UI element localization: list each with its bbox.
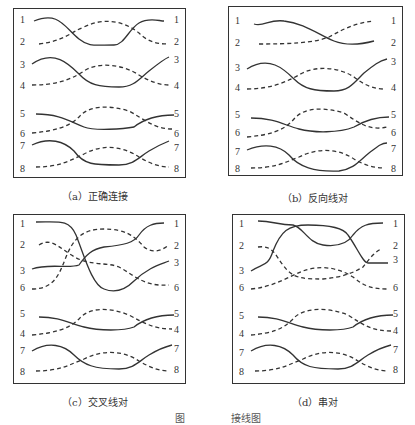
wire-4	[32, 65, 169, 85]
right-pin-label: 4	[393, 325, 398, 336]
left-pin-label: 4	[20, 80, 25, 91]
wire-5	[251, 117, 389, 132]
right-pin-label: 8	[174, 163, 179, 174]
left-pin-label: 4	[239, 328, 244, 339]
right-pin-label: 1	[391, 15, 396, 26]
left-pin-label: 3	[20, 265, 25, 276]
left-pin-label: 8	[20, 366, 25, 377]
figure-caption: 图 接线图	[175, 410, 261, 425]
right-pin-label: 8	[391, 163, 396, 174]
wire-4	[32, 309, 172, 335]
wire-3	[251, 225, 388, 271]
left-pin-label: 4	[235, 82, 240, 93]
right-pin-label: 5	[393, 308, 398, 319]
left-pin-label: 7	[20, 140, 25, 151]
wire-5	[39, 315, 174, 330]
wiring-diagram-b: 1 2 3 4 5 6 7 8 1 2 3 4 5 6 7 8	[229, 7, 404, 177]
wire-2	[39, 21, 169, 44]
left-pin-label: 2	[20, 239, 25, 250]
wire-7	[32, 345, 172, 369]
right-pin-label: 4	[174, 80, 179, 91]
right-pin-label: 7	[174, 343, 179, 354]
left-pin-label: 6	[20, 282, 25, 293]
left-pin-label: 5	[235, 109, 240, 120]
panel-c-crossed-pair: 1 2 3 6 5 4 7 8 1 2 3 6 5 4 7 8	[13, 214, 186, 384]
right-pin-label: 8	[174, 364, 179, 375]
right-pin-label: 3	[391, 56, 396, 67]
wire-3	[32, 223, 164, 269]
panel-d-split-pair: 1 2 3 6 5 4 7 8 1 2 3 6 5 4 7 8	[232, 214, 405, 384]
right-pin-label: 7	[393, 344, 398, 355]
left-pin-label: 8	[20, 163, 25, 174]
left-pin-label: 5	[20, 308, 25, 319]
wire-2	[258, 247, 381, 279]
panel-a-caption: （a）正确连接	[62, 188, 128, 203]
figure-caption-suffix: 接线图	[231, 413, 261, 424]
right-pin-label: 2	[174, 36, 179, 47]
right-pin-label: 6	[393, 282, 398, 293]
right-pin-label: 6	[174, 282, 179, 293]
wiring-diagram-a: 1 2 3 4 5 6 7 8 1 2 3 4 5 6 7 8	[14, 9, 187, 179]
left-pin-label: 2	[239, 240, 244, 251]
left-pin-label: 5	[20, 108, 25, 119]
wire-7	[251, 345, 391, 369]
wiring-diagram-d: 1 2 3 6 5 4 7 8 1 2 3 6 5 4 7 8	[233, 215, 406, 385]
left-pin-label: 3	[20, 59, 25, 70]
wire-4	[251, 309, 391, 335]
wire-8	[251, 150, 384, 168]
left-pin-label: 3	[239, 265, 244, 276]
wire-6	[39, 242, 169, 285]
left-pin-label: 2	[20, 36, 25, 47]
left-pin-label: 3	[235, 62, 240, 73]
left-pin-label: 1	[235, 15, 240, 26]
right-pin-label: 5	[174, 308, 179, 319]
right-pin-label: 3	[174, 54, 179, 65]
wire-6	[247, 109, 387, 137]
right-pin-label: 6	[391, 127, 396, 138]
right-pin-label: 2	[393, 240, 398, 251]
left-pin-label: 1	[20, 14, 25, 25]
wire-3	[32, 57, 169, 87]
right-pin-label: 2	[174, 240, 179, 251]
panel-b-caption: （b）反向线对	[282, 190, 348, 205]
right-pin-label: 4	[391, 82, 396, 93]
wire-4	[247, 68, 384, 89]
right-pin-label: 3	[393, 254, 398, 265]
figure-caption-prefix: 图	[175, 413, 185, 424]
wire-5	[36, 114, 174, 129]
panel-c-caption: （c）交叉线对	[62, 394, 128, 409]
left-pin-label: 6	[235, 127, 240, 138]
right-pin-label: 7	[391, 143, 396, 154]
right-pin-label: 5	[174, 108, 179, 119]
panel-a-correct-connection: 1 2 3 4 5 6 7 8 1 2 3 4 5 6 7 8	[13, 8, 186, 178]
left-pin-label: 7	[235, 146, 240, 157]
wire-3	[247, 59, 387, 91]
right-pin-label: 3	[174, 257, 179, 268]
left-pin-label: 7	[20, 345, 25, 356]
left-pin-label: 8	[235, 163, 240, 174]
left-pin-label: 1	[20, 218, 25, 229]
left-pin-label: 6	[239, 282, 244, 293]
right-pin-label: 1	[393, 218, 398, 229]
wire-5	[258, 315, 393, 330]
panel-d-caption: （d）串对	[292, 394, 338, 409]
right-pin-label: 1	[174, 14, 179, 25]
wire-1	[36, 222, 169, 291]
left-pin-label: 4	[20, 328, 25, 339]
left-pin-label: 8	[239, 366, 244, 377]
right-pin-label: 6	[174, 128, 179, 139]
right-pin-label: 8	[393, 364, 398, 375]
right-pin-label: 5	[391, 109, 396, 120]
right-pin-label: 4	[174, 324, 179, 335]
right-pin-label: 7	[174, 142, 179, 153]
left-pin-label: 1	[239, 218, 244, 229]
wire-6	[251, 268, 388, 289]
wire-2	[32, 229, 169, 289]
left-pin-label: 5	[239, 310, 244, 321]
right-pin-label: 1	[174, 218, 179, 229]
panel-b-reversed-pair: 1 2 3 4 5 6 7 8 1 2 3 4 5 6 7 8	[228, 6, 403, 176]
wiring-diagram-c: 1 2 3 6 5 4 7 8 1 2 3 6 5 4 7 8	[14, 215, 187, 385]
right-pin-label: 2	[391, 37, 396, 48]
left-pin-label: 2	[235, 37, 240, 48]
left-pin-label: 6	[20, 128, 25, 139]
